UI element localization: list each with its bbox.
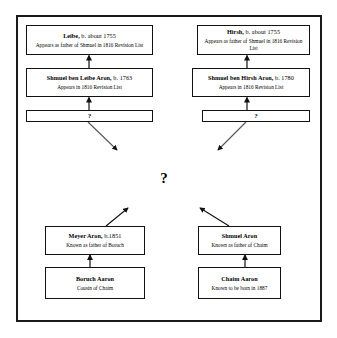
node-title: Hirsh, b. about 1755 bbox=[227, 28, 280, 36]
node-title: ? bbox=[254, 113, 258, 120]
node-shmuel-ben-hirsh-aron[interactable]: Shmuel ben Hirsh Aron, b. 1780 Appears i… bbox=[192, 68, 310, 97]
node-title: ? bbox=[88, 113, 92, 120]
node-note: Known to be born in 1887 bbox=[210, 285, 270, 292]
node-boruch-aaron[interactable]: Boruch Aaron Cousin of Chaim bbox=[45, 267, 145, 299]
node-title: Leibe, b. about 1755 bbox=[63, 32, 116, 40]
genealogy-diagram: Leibe, b. about 1755 Appears as father o… bbox=[0, 0, 337, 338]
node-note: Appears in 1816 Revision List bbox=[55, 84, 124, 91]
node-title: Chaim Aaron bbox=[221, 275, 257, 283]
node-note: Appears as father of Shmuel in 1816 Revi… bbox=[34, 42, 145, 49]
node-leibe[interactable]: Leibe, b. about 1755 Appears as father o… bbox=[26, 25, 153, 55]
node-title: Shmuel ben Hirsh Aron, b. 1780 bbox=[208, 74, 294, 82]
node-unknown-left[interactable]: ? bbox=[26, 110, 153, 122]
node-note: Appears as father of Shmuel in 1816 Revi… bbox=[200, 38, 307, 51]
node-title: Meyer Aron, b.1851 bbox=[69, 232, 122, 240]
node-shmuel-ben-leibe-aron[interactable]: Shmuel ben Leibe Aron, b. 1763 Appears i… bbox=[26, 68, 153, 97]
node-hirsh[interactable]: Hirsh, b. about 1755 Appears as father o… bbox=[197, 25, 310, 55]
node-unknown-right[interactable]: ? bbox=[202, 110, 310, 122]
center-unknown-marker: ? bbox=[155, 171, 173, 186]
node-title: Shmuel ben Leibe Aron, b. 1763 bbox=[47, 74, 132, 82]
node-meyer-aron[interactable]: Meyer Aron, b.1851 Known as father of Bo… bbox=[45, 226, 145, 255]
node-note: Appears in 1816 Revision List bbox=[217, 84, 286, 91]
node-title: Boruch Aaron bbox=[76, 275, 114, 283]
node-title: Shmuel Aron bbox=[222, 232, 257, 240]
node-chaim-aaron[interactable]: Chaim Aaron Known to be born in 1887 bbox=[198, 267, 281, 299]
node-note: Known as father of Chaim bbox=[209, 242, 269, 249]
node-note: Cousin of Chaim bbox=[75, 285, 115, 292]
node-shmuel-aron[interactable]: Shmuel Aron Known as father of Chaim bbox=[198, 226, 281, 255]
node-note: Known as father of Boruch bbox=[64, 242, 126, 249]
